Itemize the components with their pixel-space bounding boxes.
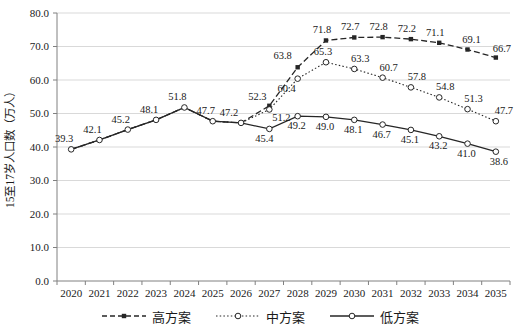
svg-text:2022: 2022 [117, 287, 139, 299]
svg-text:2032: 2032 [400, 287, 422, 299]
svg-text:40.0: 40.0 [30, 141, 50, 153]
legend-item-high: 高方案 [101, 307, 191, 326]
svg-text:52.3: 52.3 [248, 91, 266, 102]
svg-text:2034: 2034 [457, 287, 480, 299]
svg-text:63.3: 63.3 [351, 53, 369, 64]
svg-text:2023: 2023 [145, 287, 168, 299]
svg-text:30.0: 30.0 [30, 174, 50, 186]
svg-text:70.0: 70.0 [30, 40, 50, 52]
svg-text:43.2: 43.2 [429, 140, 447, 151]
chart-page: 0.010.020.030.040.050.060.070.080.020202… [0, 0, 519, 332]
y-axis-tick-labels: 0.010.020.030.040.050.060.070.080.0 [30, 7, 50, 287]
legend-low-line-sample [329, 311, 375, 321]
svg-text:50.0: 50.0 [30, 107, 50, 119]
svg-text:49.2: 49.2 [287, 120, 305, 131]
legend-label-high: 高方案 [152, 307, 191, 326]
svg-text:39.3: 39.3 [55, 133, 73, 144]
svg-text:63.8: 63.8 [273, 50, 291, 61]
svg-text:0.0: 0.0 [35, 275, 49, 287]
svg-text:10.0: 10.0 [30, 241, 50, 253]
svg-text:2029: 2029 [315, 287, 338, 299]
svg-text:2024: 2024 [173, 287, 196, 299]
svg-text:72.8: 72.8 [369, 21, 387, 32]
svg-text:48.1: 48.1 [140, 104, 158, 115]
svg-text:2030: 2030 [343, 287, 366, 299]
svg-text:41.0: 41.0 [457, 148, 475, 159]
svg-text:42.1: 42.1 [83, 124, 101, 135]
x-axis-tick-labels: 2020202120222023202420252026202720282029… [60, 287, 507, 299]
svg-text:60.7: 60.7 [379, 62, 397, 73]
svg-text:46.7: 46.7 [372, 129, 390, 140]
svg-text:71.1: 71.1 [426, 27, 444, 38]
svg-text:57.8: 57.8 [408, 71, 426, 82]
svg-text:48.1: 48.1 [344, 124, 362, 135]
svg-text:72.7: 72.7 [341, 21, 359, 32]
svg-text:65.3: 65.3 [314, 46, 332, 57]
svg-text:69.1: 69.1 [462, 34, 480, 45]
svg-text:45.4: 45.4 [255, 133, 274, 144]
svg-text:47.2: 47.2 [220, 107, 238, 118]
legend-medium-line-sample [215, 311, 261, 321]
svg-text:80.0: 80.0 [30, 7, 50, 19]
svg-text:49.0: 49.0 [316, 121, 334, 132]
svg-text:47.7: 47.7 [495, 105, 513, 116]
svg-text:2020: 2020 [60, 287, 83, 299]
legend-label-low: 低方案 [380, 307, 419, 326]
svg-text:72.2: 72.2 [398, 23, 416, 34]
svg-text:15至17岁人口数（万人）: 15至17岁人口数（万人） [3, 86, 16, 208]
svg-text:47.7: 47.7 [197, 105, 215, 116]
svg-text:51.8: 51.8 [168, 91, 186, 102]
legend-label-medium: 中方案 [266, 307, 305, 326]
svg-text:2027: 2027 [258, 287, 281, 299]
svg-text:2031: 2031 [372, 287, 394, 299]
y-axis-title: 15至17岁人口数（万人） [3, 86, 16, 208]
svg-text:45.1: 45.1 [401, 134, 419, 145]
svg-text:2035: 2035 [485, 287, 508, 299]
line-chart: 0.010.020.030.040.050.060.070.080.020202… [0, 0, 519, 302]
svg-text:54.8: 54.8 [436, 81, 454, 92]
legend-item-medium: 中方案 [215, 307, 305, 326]
svg-text:2033: 2033 [428, 287, 451, 299]
legend-high-line-sample [101, 311, 147, 321]
svg-text:2026: 2026 [230, 287, 253, 299]
svg-text:45.2: 45.2 [112, 114, 130, 125]
svg-text:2025: 2025 [202, 287, 225, 299]
svg-text:60.4: 60.4 [277, 83, 296, 94]
legend-item-low: 低方案 [329, 307, 419, 326]
svg-text:38.6: 38.6 [490, 156, 508, 167]
svg-text:66.7: 66.7 [493, 43, 511, 54]
svg-text:71.8: 71.8 [313, 24, 331, 35]
svg-text:51.3: 51.3 [464, 93, 482, 104]
svg-text:20.0: 20.0 [30, 208, 50, 220]
svg-text:2028: 2028 [287, 287, 310, 299]
svg-text:2021: 2021 [88, 287, 110, 299]
svg-text:60.0: 60.0 [30, 74, 50, 86]
legend: 高方案 中方案 低方案 [0, 303, 519, 329]
